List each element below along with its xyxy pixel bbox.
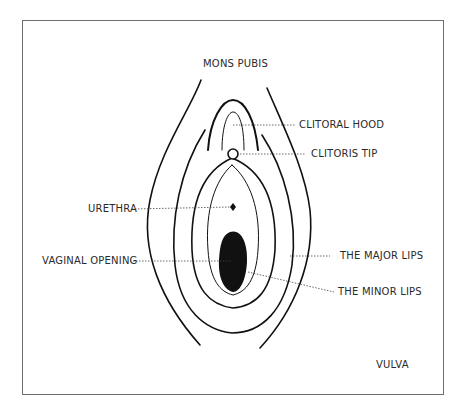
label-urethra: URETHRA [88,203,137,215]
label-minor-lips: THE MINOR LIPS [338,286,422,298]
vaginal-opening-shape [219,231,247,292]
clitoris-tip-shape [228,149,238,159]
label-major-lips: THE MAJOR LIPS [340,250,423,262]
label-clitoral-hood: CLITORAL HOOD [299,119,384,131]
diagram-title: VULVA [376,359,409,371]
hood-inner [222,112,244,150]
urethra-mark [230,203,236,211]
outer-contour-left [147,80,201,345]
label-mons-pubis: MONS PUBIS [203,58,268,70]
label-vaginal-opening: VAGINAL OPENING [42,255,138,267]
leader-minor-lips [248,272,334,292]
label-clitoris-tip: CLITORIS TIP [311,148,377,160]
leader-urethra [132,207,231,209]
